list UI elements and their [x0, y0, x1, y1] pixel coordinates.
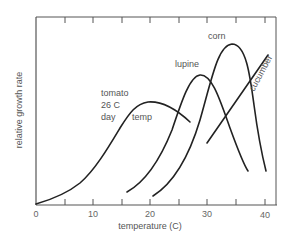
corn-label: corn: [208, 31, 226, 41]
x-axis-label: temperature (C): [118, 221, 182, 231]
growth-rate-chart: 0 10 20 30 40 temperature (C) relative g…: [0, 0, 295, 238]
tomato-label-temp: temp: [132, 112, 152, 122]
corn-curve: [153, 44, 266, 196]
lupine-curve: [127, 75, 248, 192]
x-tick-label-30: 30: [202, 209, 212, 219]
top-ticks: [65, 17, 265, 23]
x-tick-label-40: 40: [260, 210, 270, 220]
tomato-label-line3: day: [101, 112, 116, 122]
x-tick-label-10: 10: [88, 209, 98, 219]
cucumber-label: cucumber: [247, 53, 274, 93]
x-tick-label-0: 0: [33, 209, 38, 219]
plot-frame: [36, 17, 277, 205]
tomato-label-line1: tomato: [101, 88, 129, 98]
x-ticks: [65, 199, 265, 205]
lupine-label: lupine: [175, 59, 199, 69]
tomato-label-line2: 26 C: [101, 100, 121, 110]
x-tick-label-20: 20: [145, 209, 155, 219]
y-axis-label: relative growth rate: [14, 72, 24, 149]
